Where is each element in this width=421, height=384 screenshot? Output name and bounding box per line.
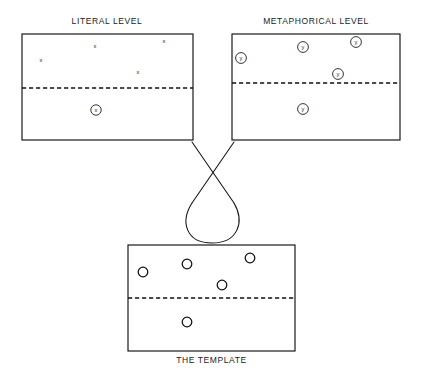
- template-mark-circle: [245, 253, 255, 263]
- literal-mark-x-circled: x: [91, 105, 101, 115]
- template-mark-circle: [138, 267, 148, 277]
- template-mark-circle: [217, 280, 227, 290]
- literal-mark-x: x: [137, 69, 140, 75]
- circled-y-label: y: [355, 39, 358, 45]
- metaphorical-level-box: [232, 34, 400, 140]
- template-title: THE TEMPLATE: [128, 355, 295, 365]
- metaphorical-level-title: METAPHORICAL LEVEL: [232, 16, 400, 26]
- circled-y-label: y: [337, 71, 340, 77]
- literal-level-box: [22, 34, 193, 140]
- connector-group: [186, 142, 239, 243]
- metaphorical-mark-y-circled: y: [236, 53, 247, 64]
- circled-y-label: y: [240, 55, 243, 61]
- teardrop-loop: [186, 203, 239, 243]
- literal-mark-x: x: [40, 57, 43, 63]
- circled-y-label: y: [302, 106, 305, 112]
- metaphorical-mark-y-circled: y: [298, 104, 309, 115]
- metaphorical-mark-y-circled: y: [333, 69, 344, 80]
- diagram-canvas: x x x x x y y y: [0, 0, 421, 384]
- panel-metaphorical-level: y y y y y: [232, 34, 400, 140]
- template-mark-circle: [182, 317, 192, 327]
- panel-the-template: [128, 245, 295, 351]
- metaphorical-mark-y-circled: y: [351, 37, 362, 48]
- metaphorical-mark-y-circled: y: [298, 42, 309, 53]
- diagram-graphics: x x x x x y y y: [0, 0, 421, 384]
- literal-mark-x: x: [94, 43, 97, 49]
- circled-y-label: y: [302, 44, 305, 50]
- circled-x-label: x: [95, 107, 98, 113]
- panel-literal-level: x x x x x: [22, 34, 193, 140]
- template-mark-circle: [182, 259, 192, 269]
- literal-mark-x: x: [163, 38, 166, 44]
- literal-level-title: LITERAL LEVEL: [0, 16, 214, 26]
